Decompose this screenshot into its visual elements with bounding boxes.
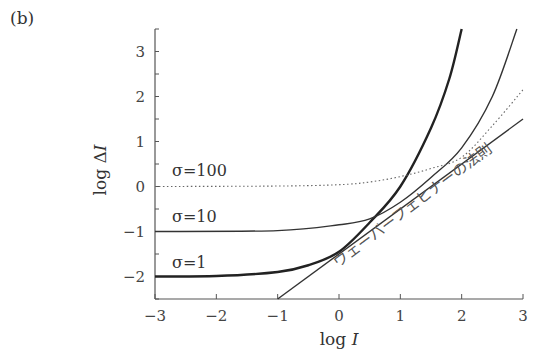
x-tick-label: −2 bbox=[205, 307, 227, 325]
y-tick-label: −1 bbox=[123, 223, 145, 241]
x-tick-label: 2 bbox=[457, 307, 467, 325]
x-tick-label: −1 bbox=[267, 307, 289, 325]
label-sigma-1: σ=1 bbox=[172, 253, 207, 272]
chart: −2−10123−3−2−10123 σ=100 σ=10 σ=1 ウェーバーフ… bbox=[0, 0, 550, 355]
label-sigma-10: σ=10 bbox=[172, 207, 217, 226]
label-sigma-100: σ=100 bbox=[172, 161, 227, 180]
y-tick-label: 1 bbox=[135, 133, 145, 151]
x-tick-label: 1 bbox=[396, 307, 406, 325]
x-tick-label: 0 bbox=[334, 307, 344, 325]
y-tick-label: 3 bbox=[135, 43, 145, 61]
series-line-0 bbox=[155, 29, 462, 277]
x-tick-label: 3 bbox=[518, 307, 528, 325]
y-tick-label: −2 bbox=[123, 268, 145, 286]
y-tick-label: 0 bbox=[135, 178, 145, 196]
x-axis-label: log I bbox=[320, 329, 359, 349]
weber-fechner-law-label: ウェーバーフェヒナーの法則 bbox=[330, 140, 496, 271]
y-tick-label: 2 bbox=[135, 88, 145, 106]
y-axis-label: log ΔI bbox=[90, 144, 110, 195]
x-tick-label: −3 bbox=[144, 307, 166, 325]
series-line-1 bbox=[155, 29, 517, 232]
